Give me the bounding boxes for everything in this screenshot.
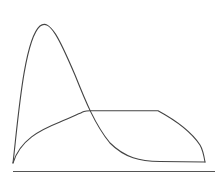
series-peaked-curve xyxy=(13,24,205,163)
series-plateau-curve xyxy=(13,111,205,163)
line-chart xyxy=(0,0,222,186)
